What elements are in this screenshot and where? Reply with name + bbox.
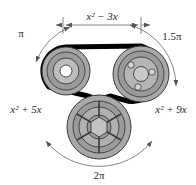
top-left-pulley xyxy=(42,47,90,95)
label-arc-top-left: π xyxy=(18,27,24,39)
top-right-pulley-hub xyxy=(134,67,149,82)
bolt-hole-2 xyxy=(149,69,155,75)
top-right-pulley xyxy=(113,46,169,102)
bolt-hole-1 xyxy=(128,62,134,68)
diagram-canvas: x² − 3x π 1.5π x² + 5x x² + 9x 2π xyxy=(0,0,196,185)
label-top-segment: x² − 3x xyxy=(85,10,118,22)
label-right-segment: x² + 9x xyxy=(154,103,187,115)
pulley-diagram-figure: x² − 3x π 1.5π x² + 5x x² + 9x 2π xyxy=(0,0,196,185)
label-arc-bottom: 2π xyxy=(93,169,105,181)
bottom-pulley xyxy=(67,95,131,159)
label-arc-top-right: 1.5π xyxy=(162,30,182,42)
top-left-pulley-hub xyxy=(60,65,72,77)
bolt-hole-3 xyxy=(135,84,141,90)
bottom-pulley-hex-hub xyxy=(91,117,107,137)
label-left-segment: x² + 5x xyxy=(9,103,42,115)
